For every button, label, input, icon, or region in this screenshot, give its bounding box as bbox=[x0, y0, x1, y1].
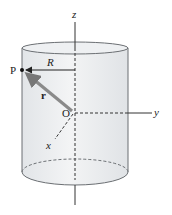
point-p-dot bbox=[20, 68, 24, 72]
origin-label: O bbox=[62, 107, 70, 119]
cylinder-diagram: z y x R r⃗ P O bbox=[0, 0, 172, 215]
x-axis-label: x bbox=[45, 139, 51, 151]
position-vector-label: r⃗ bbox=[41, 89, 54, 101]
radius-label: R bbox=[46, 56, 54, 68]
origin: O bbox=[62, 107, 70, 119]
z-axis-label: z bbox=[71, 8, 77, 20]
y-axis-label: y bbox=[153, 106, 159, 118]
point-p-label: P bbox=[10, 64, 16, 76]
